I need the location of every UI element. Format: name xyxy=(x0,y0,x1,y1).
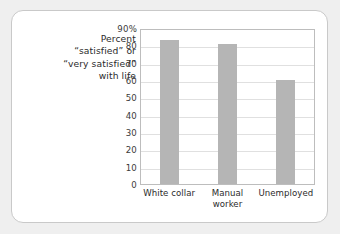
y-axis-tick-label: 70 xyxy=(126,59,137,69)
y-axis-tick-label: 30 xyxy=(126,128,137,138)
x-axis-label: Manualworker xyxy=(198,188,256,209)
bar-slot xyxy=(199,30,257,184)
x-axis-label-line: White collar xyxy=(140,188,198,199)
y-axis-tick-label: 60 xyxy=(126,76,137,86)
x-axis-label-line: Unemployed xyxy=(257,188,315,199)
bar[interactable] xyxy=(276,80,295,184)
y-axis-tick-label: 20 xyxy=(126,145,137,155)
y-axis-tick-label: 90% xyxy=(117,24,137,34)
x-axis-label: Unemployed xyxy=(257,188,315,209)
plot-area xyxy=(140,29,315,185)
y-axis-tick-label: 50 xyxy=(126,93,137,103)
x-axis-label-line: worker xyxy=(198,199,256,210)
y-axis-tick-label: 80 xyxy=(126,41,137,51)
bar-slot xyxy=(256,30,314,184)
chart-card: Percent “satisfied” or “very satisfied” … xyxy=(11,10,328,223)
y-axis-tick-label: 10 xyxy=(126,163,137,173)
bar-slot xyxy=(141,30,199,184)
x-axis-label-line: Manual xyxy=(198,188,256,199)
x-axis-labels: White collarManualworkerUnemployed xyxy=(140,188,315,209)
bar[interactable] xyxy=(218,44,237,184)
y-axis-tick-label: 40 xyxy=(126,111,137,121)
bar[interactable] xyxy=(160,40,179,184)
bars-group xyxy=(141,30,314,184)
figure-container: Percent “satisfied” or “very satisfied” … xyxy=(0,0,340,234)
y-axis-tick-label: 0 xyxy=(131,180,137,190)
bar-chart: 0102030405060708090% White collarManualw… xyxy=(140,29,315,211)
x-axis-label: White collar xyxy=(140,188,198,209)
y-axis-ticks: 0102030405060708090% xyxy=(107,29,137,185)
